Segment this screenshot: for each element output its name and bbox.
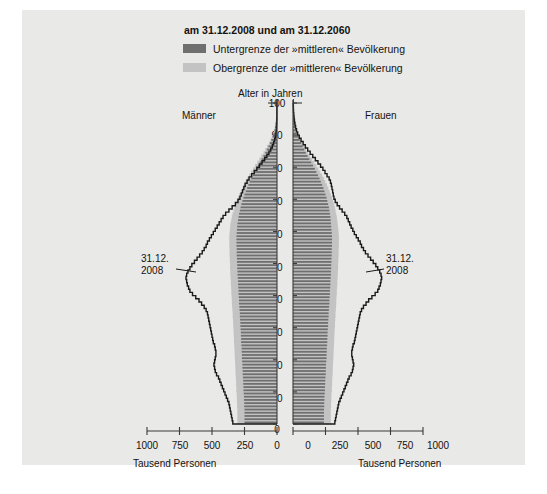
pyramid-plot: [0, 0, 547, 494]
population-pyramid-chart: am 31.12.2008 und am 31.12.2060 Untergre…: [0, 0, 547, 494]
